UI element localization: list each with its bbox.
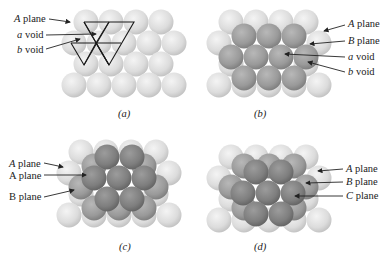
caption-b: (b) — [254, 108, 267, 120]
label-a-plane: A plane — [345, 163, 378, 174]
label-b-void: b void — [17, 44, 44, 55]
label-c-plane: C plane — [346, 190, 379, 201]
panel-b: A plane B plane a void b void (b) — [207, 10, 381, 121]
close-packing-diagram: A plane a void b void (a) A plane B plan… — [0, 0, 383, 264]
label-a-plane: A plane — [13, 13, 46, 24]
a-plane-spheres — [62, 10, 187, 98]
label-a-plane-top: A plane — [9, 170, 42, 181]
caption-a: (a) — [118, 108, 131, 120]
panel-d: A plane B plane C plane (d) — [207, 145, 379, 254]
caption-c: (c) — [119, 241, 131, 253]
b-plane-spheres — [219, 24, 319, 91]
label-b-void: b void — [348, 66, 375, 77]
label-b-plane: B plane — [346, 176, 378, 187]
label-b-plane: B plane — [9, 191, 42, 202]
label-b-plane: B plane — [348, 35, 380, 46]
caption-d: (d) — [254, 241, 267, 253]
label-a-void: a void — [348, 51, 375, 62]
panel-c: A plane A plane B plane (c) — [8, 140, 182, 254]
panel-a: A plane a void b void (a) — [13, 10, 187, 121]
label-a-void: a void — [17, 29, 44, 40]
label-a-plane-bottom: A plane — [8, 158, 41, 169]
label-a-plane: A plane — [347, 18, 380, 29]
